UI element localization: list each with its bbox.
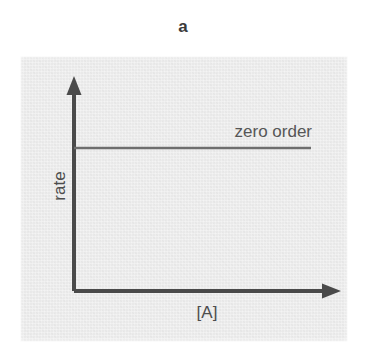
y-axis-label: rate [50, 156, 70, 216]
figure-root: a rate [A] zero order [0, 0, 366, 352]
x-axis-label: [A] [74, 303, 340, 323]
series-label-zero-order: zero order [90, 122, 312, 142]
panel-letter: a [0, 17, 366, 37]
